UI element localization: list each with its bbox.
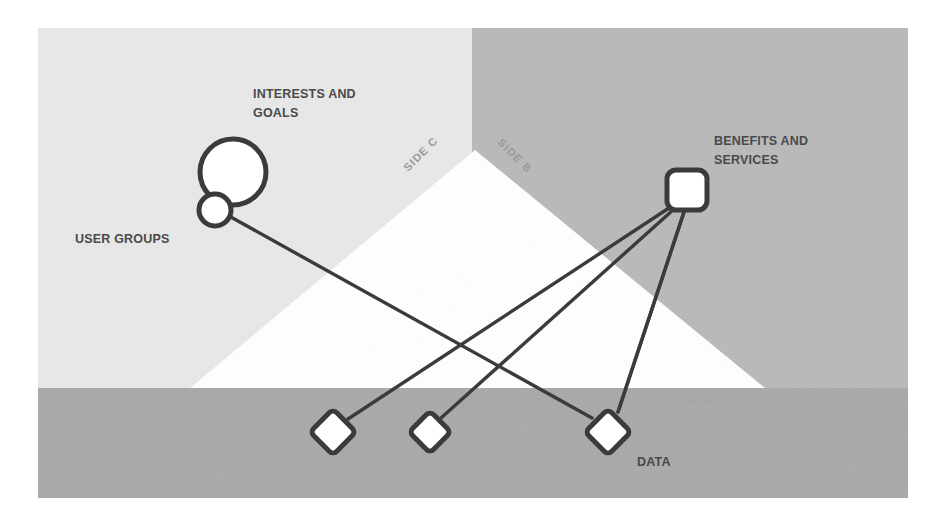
paper-grain-overlay [38, 28, 908, 498]
triangle-relationship-diagram: SIDE A SIDE B SIDE C INTERESTS AND GOALS… [0, 0, 945, 521]
node-user-groups[interactable] [199, 194, 231, 226]
label-data: DATA [637, 455, 671, 469]
label-interests-and-goals-line1: INTERESTS AND [253, 87, 356, 101]
label-benefits-and-services-line1: BENEFITS AND [714, 134, 808, 148]
side-a-label: SIDE A [682, 394, 725, 406]
diagram-canvas: SIDE A SIDE B SIDE C INTERESTS AND GOALS… [0, 0, 945, 521]
label-user-groups: USER GROUPS [75, 232, 170, 246]
label-benefits-and-services-line2: SERVICES [714, 153, 779, 167]
label-interests-and-goals-line2: GOALS [253, 106, 298, 120]
node-benefits-and-services[interactable] [667, 170, 707, 210]
